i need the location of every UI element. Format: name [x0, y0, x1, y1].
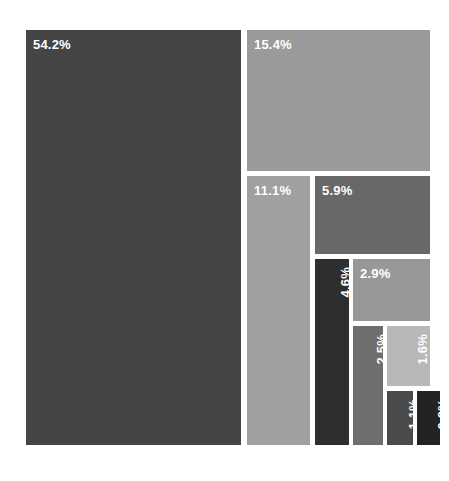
treemap-tile[interactable]: 0.8% — [417, 391, 440, 445]
treemap-tile[interactable]: 11.1% — [247, 176, 310, 445]
treemap-tile-label: 1.6% — [416, 334, 429, 364]
treemap-tile-label: 4.6% — [339, 267, 349, 297]
treemap-tile-label: 54.2% — [33, 38, 71, 51]
treemap-tile[interactable]: 5.9% — [315, 176, 430, 254]
treemap-tile-label: 0.8% — [436, 399, 441, 429]
treemap-tile[interactable]: 2.9% — [353, 259, 430, 321]
treemap-plot-area: 54.2%15.4%11.1%5.9%4.6%2.9%2.5%1.6%1.1%0… — [26, 30, 430, 445]
treemap-tile-label: 11.1% — [254, 184, 291, 197]
treemap-tile-label: 15.4% — [254, 38, 292, 51]
treemap-tile[interactable]: 1.6% — [387, 326, 430, 386]
treemap-tile-label: 5.9% — [322, 184, 352, 197]
treemap-tile[interactable]: 2.5% — [353, 326, 383, 445]
treemap-tile-label: 1.1% — [407, 399, 413, 429]
treemap-tile[interactable]: 1.1% — [387, 391, 413, 445]
treemap-tile-label: 2.9% — [360, 267, 390, 280]
treemap-figure: 54.2%15.4%11.1%5.9%4.6%2.9%2.5%1.6%1.1%0… — [0, 0, 449, 481]
treemap-tile[interactable]: 15.4% — [247, 30, 430, 171]
treemap-tile[interactable]: 54.2% — [26, 30, 241, 445]
treemap-tile[interactable]: 4.6% — [315, 259, 349, 445]
treemap-tile-label: 2.5% — [375, 334, 383, 364]
